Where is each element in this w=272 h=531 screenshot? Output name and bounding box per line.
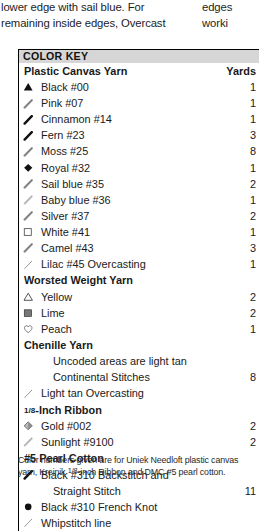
color-key-row-label: Moss #25: [41, 143, 88, 159]
filled-square-icon: [23, 305, 39, 321]
body-column-left: lower edge with sail blue. For remaining…: [1, 0, 191, 31]
color-key-row-label: Fern #23: [41, 127, 85, 143]
hatched-slash-vlight-icon: [23, 192, 39, 208]
color-key-row: Black #310 French Knot: [19, 499, 259, 515]
color-key-section-heading: 1/8-Inch Ribbon: [19, 402, 259, 418]
color-key-section-heading: Chenille Yarn: [19, 337, 259, 353]
yards-column-header: Yards: [226, 63, 256, 79]
color-key-row-label: Silver #37: [41, 208, 89, 224]
color-key-row-yards: 3: [250, 240, 256, 256]
open-square-icon: [23, 224, 39, 240]
color-key-row-label: Royal #32: [41, 160, 90, 176]
footnote-line: yarn, Kreinik 1/8-inch Ribbon and DMC #5…: [18, 466, 258, 477]
color-key-row: Sail blue #352: [19, 176, 259, 192]
hatched-slash-vlight-icon: [23, 434, 39, 450]
color-key-row: Pink #071: [19, 95, 259, 111]
shaded-diamond-icon: [23, 418, 39, 434]
hatched-slash-light-icon: [23, 95, 39, 111]
color-key-row: Gold #0022: [19, 418, 259, 434]
color-key-row-yards: 11: [245, 483, 256, 499]
body-line: edges: [202, 0, 272, 16]
color-key-title: COLOR KEY: [23, 50, 88, 62]
section-heading-label: Chenille Yarn: [24, 337, 93, 353]
color-key-row: Baby blue #361: [19, 192, 259, 208]
color-key-row-yards: 1: [250, 111, 256, 127]
color-key-row-label: Lime: [41, 305, 65, 321]
open-triangle-icon: [23, 289, 39, 305]
color-key-row-label: Lilac #45 Overcasting: [41, 256, 146, 272]
color-key-row-label: Gold #002: [41, 418, 91, 434]
color-key-row: Uncoded areas are light tan: [19, 353, 259, 369]
hatched-slash-dark-icon: [23, 127, 39, 143]
color-key-row-yards: 8: [250, 143, 256, 159]
color-key-row-label: Whipstitch line: [41, 515, 111, 531]
hatched-slash-light-icon: [23, 176, 39, 192]
color-key-section-heading: Worsted Weight Yarn: [19, 272, 259, 288]
color-key-row-label: Sunlight #9100: [41, 434, 114, 450]
color-key-row-label: Light tan Overcasting: [41, 385, 144, 401]
color-key-row: Straight Stitch11: [19, 483, 259, 499]
color-key-row: Royal #321: [19, 160, 259, 176]
filled-circle-icon: [23, 499, 39, 515]
color-key-row-label: Straight Stitch: [53, 483, 121, 499]
color-key-row-yards: 1: [250, 95, 256, 111]
color-key-row: Camel #433: [19, 240, 259, 256]
color-key-row: Moss #258: [19, 143, 259, 159]
color-key-row: White #411: [19, 224, 259, 240]
color-key-row-yards: 1: [250, 160, 256, 176]
color-key-row-yards: 3: [250, 127, 256, 143]
color-key-row: Peach1: [19, 321, 259, 337]
color-key-row-label: Uncoded areas are light tan: [53, 353, 187, 369]
hatched-slash-dark-icon: [23, 111, 39, 127]
color-key-row-yards: 2: [250, 305, 256, 321]
footnote-line: Color numbers given are for Uniek Needlo…: [18, 455, 258, 466]
color-key-row: Black #001: [19, 79, 259, 95]
footnote-line2-pre: yarn, Kreinik: [18, 466, 68, 476]
body-line: worki: [202, 16, 272, 32]
hatched-slash-light-icon: [23, 143, 39, 159]
color-key-row: Continental Stitches8: [19, 369, 259, 385]
color-key-row: Lilac #45 Overcasting1: [19, 256, 259, 272]
color-key-row-label: Baby blue #36: [41, 192, 111, 208]
article-body-text: lower edge with sail blue. For remaining…: [0, 0, 259, 42]
color-key-row-label: Cinnamon #14: [41, 111, 112, 127]
body-line: lower edge with sail blue. For: [1, 0, 191, 16]
color-key-row-yards: 8: [250, 369, 256, 385]
hatched-slash-light-icon: [23, 240, 39, 256]
fraction-denominator: 8: [31, 405, 36, 414]
color-key-row-yards: 1: [250, 192, 256, 208]
color-key-row-label: Camel #43: [41, 240, 94, 256]
color-key-row-yards: 1: [250, 321, 256, 337]
color-key-row: Lime2: [19, 305, 259, 321]
section-heading-label: Plastic Canvas Yarn: [24, 63, 127, 79]
thin-stroke-icon: [23, 515, 39, 531]
body-column-right: edges worki: [202, 0, 272, 31]
color-key-row: Silver #372: [19, 208, 259, 224]
color-key-section-heading: Plastic Canvas YarnYards: [19, 63, 259, 79]
thin-stroke-icon: [23, 385, 39, 401]
color-key-row-label: Sail blue #35: [41, 176, 104, 192]
color-key-row-label: Continental Stitches: [53, 369, 150, 385]
color-key-row-yards: 2: [250, 176, 256, 192]
color-key-row: Cinnamon #141: [19, 111, 259, 127]
color-key-row-yards: 2: [250, 289, 256, 305]
hatched-slash-light-icon: [23, 208, 39, 224]
thin-stroke-icon: [23, 256, 39, 272]
color-key-row: Light tan Overcasting: [19, 385, 259, 401]
color-key-row-yards: 1: [250, 79, 256, 95]
color-key-row-label: Black #310 French Knot: [41, 499, 157, 515]
color-key-row-yards: 1: [250, 224, 256, 240]
color-key-row-yards: 2: [250, 208, 256, 224]
filled-diamond-icon: [23, 160, 39, 176]
open-heart-icon: [23, 321, 39, 337]
color-key-row-label: Yellow: [41, 289, 72, 305]
color-key-row-yards: 2: [250, 418, 256, 434]
color-key-row: Fern #233: [19, 127, 259, 143]
footnote-line2-post: -inch Ribbon and DMC #5 pearl cotton.: [78, 466, 226, 476]
color-key-row: Sunlight #91002: [19, 434, 259, 450]
color-key-row-label: Peach: [41, 321, 72, 337]
color-key-row-yards: 2: [250, 434, 256, 450]
color-key-row-yards: 1: [250, 256, 256, 272]
color-key-footnote: Color numbers given are for Uniek Needlo…: [18, 455, 258, 477]
color-key-row: Whipstitch line: [19, 515, 259, 531]
